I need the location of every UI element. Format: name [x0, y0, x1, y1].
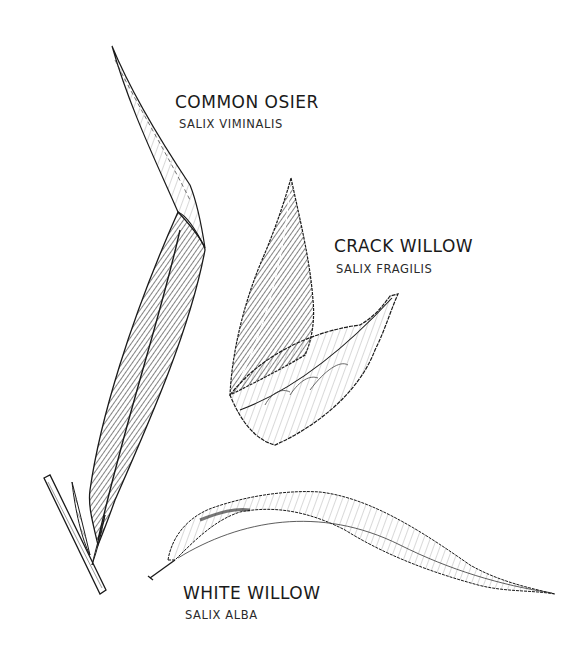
- crack-willow-latin-name: SALIX FRAGILIS: [336, 262, 432, 276]
- willow-illustration: COMMON OSIER SALIX VIMINALIS CRACK WILLO…: [0, 0, 587, 667]
- white-willow-leaf: [148, 492, 555, 594]
- common-osier-latin-name: SALIX VIMINALIS: [179, 117, 283, 131]
- common-osier-name: COMMON OSIER: [175, 92, 319, 112]
- crack-willow-leaves: [230, 178, 398, 445]
- crack-willow-name: CRACK WILLOW: [334, 236, 473, 256]
- white-willow-name: WHITE WILLOW: [183, 583, 320, 603]
- white-willow-latin-name: SALIX ALBA: [185, 608, 258, 622]
